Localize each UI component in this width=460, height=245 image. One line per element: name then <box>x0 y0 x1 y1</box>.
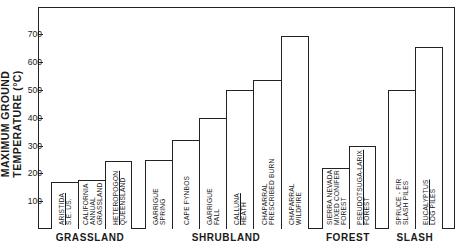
bar: SIERRA NEVADA MIXED CONIFER FOREST <box>322 168 350 229</box>
y-tick-mark <box>38 90 43 91</box>
bar-label: PSEUDOTSUGA-LARIX FOREST <box>356 150 370 225</box>
bar-label: CALLUNA HEATH <box>233 193 247 225</box>
bar-label: CHAPARRAL WILDFIRE <box>288 183 302 225</box>
y-tick-mark <box>38 201 43 202</box>
bar: SPRUCE - FIR SLASH PILES <box>388 90 416 229</box>
bar: CALLUNA HEATH <box>226 90 254 229</box>
bar-label: SPRUCE - FIR SLASH PILES <box>395 179 409 225</box>
bar-label: GARRIGUE FALL <box>206 188 220 225</box>
bar-label: HETEROPOGON QUEENSLAND <box>112 171 126 225</box>
bar-label: ARISTIDA S.E. US. <box>58 193 72 225</box>
bar: PSEUDOTSUGA-LARIX FOREST <box>349 146 376 229</box>
bar-label: CHAPARRAL PRESCRIBED BURN <box>261 159 275 225</box>
y-tick-mark <box>38 173 43 174</box>
bar-label: SIERRA NEVADA MIXED CONIFER FOREST <box>326 170 347 225</box>
y-tick-mark <box>38 118 43 119</box>
bar-label: CAPE FYNBOS <box>183 176 190 225</box>
y-tick-mark <box>38 146 43 147</box>
y-tick-mark <box>38 34 43 35</box>
bar-label: GARRIGUE SPRING <box>152 188 166 225</box>
bar: EUCALYPTUS LOG PILES <box>415 47 443 229</box>
group-label: SLASH <box>365 232 460 243</box>
bar: CALIFORNIA ANNUAL GRASSLAND <box>78 180 106 229</box>
group-label: SHRUBLAND <box>176 232 276 243</box>
bar: CAPE FYNBOS <box>172 140 200 229</box>
bar: CHAPARRAL WILDFIRE <box>281 36 309 229</box>
bar: ARISTIDA S.E. US. <box>51 182 79 229</box>
bar-chart: MAXIMUM GROUND TEMPERATURE (°C) 10020030… <box>0 0 460 245</box>
group-label: GRASSLAND <box>40 232 140 243</box>
y-axis-label: MAXIMUM GROUND TEMPERATURE (°C) <box>0 29 23 219</box>
bar-label: CALIFORNIA ANNUAL GRASSLAND <box>82 183 103 225</box>
y-tick-mark <box>38 62 43 63</box>
bar: GARRIGUE SPRING <box>145 160 173 230</box>
bar: HETEROPOGON QUEENSLAND <box>105 161 132 229</box>
bar: GARRIGUE FALL <box>199 118 227 229</box>
bar: CHAPARRAL PRESCRIBED BURN <box>253 80 282 229</box>
bar-label: EUCALYPTUS LOG PILES <box>422 180 436 225</box>
